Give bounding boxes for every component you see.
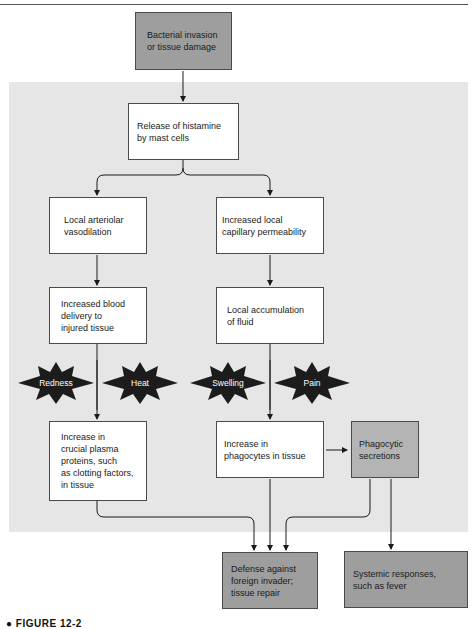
figure-caption: ● FIGURE 12-2 <box>6 618 82 629</box>
